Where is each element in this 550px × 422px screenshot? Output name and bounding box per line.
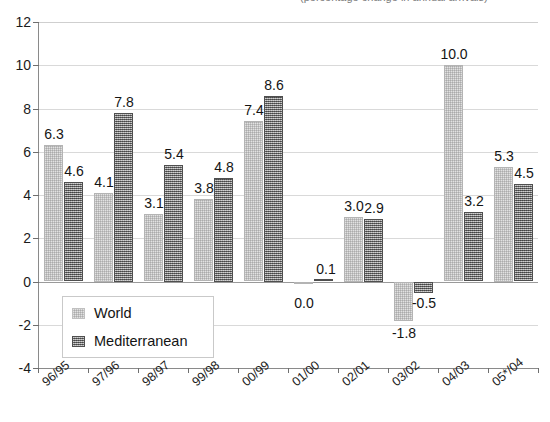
bar-mediterranean-0100 <box>314 279 333 281</box>
data-label: 3.1 <box>139 196 169 210</box>
bar-world-9998 <box>194 199 213 281</box>
data-label: 5.3 <box>489 149 519 163</box>
bar-world-0099 <box>244 121 263 281</box>
gridline <box>38 65 538 66</box>
x-axis-tick <box>538 368 539 373</box>
bar-chart: (percentage change in annual arrivals) -… <box>0 0 550 422</box>
gridline <box>38 109 538 110</box>
y-axis-tick <box>33 195 39 196</box>
bar-world-0403 <box>444 65 463 281</box>
data-label: 2.9 <box>359 201 389 215</box>
y-axis-label: 8 <box>3 102 31 116</box>
data-label: 0.0 <box>289 296 319 310</box>
bar-mediterranean-9796 <box>114 113 133 282</box>
legend-swatch-mediterranean-icon <box>72 336 85 347</box>
data-label: 7.4 <box>239 103 269 117</box>
bar-mediterranean-0504 <box>514 184 533 281</box>
gridline <box>38 238 538 239</box>
data-label: 4.6 <box>59 164 89 178</box>
legend-swatch-world-icon <box>72 308 85 319</box>
x-axis-tick <box>188 368 189 373</box>
y-axis-tick <box>33 325 39 326</box>
data-label: 3.8 <box>189 181 219 195</box>
data-label: 7.8 <box>109 95 139 109</box>
y-axis-label: 6 <box>3 145 31 159</box>
x-axis-tick <box>338 368 339 373</box>
cropped-title-text: (percentage change in annual arrivals) <box>300 0 488 3</box>
y-axis-tick <box>33 65 39 66</box>
x-axis-tick <box>488 368 489 373</box>
legend-item-world: World <box>72 305 132 321</box>
bar-world-9796 <box>94 193 113 282</box>
x-axis-tick <box>438 368 439 373</box>
x-axis-tick <box>238 368 239 373</box>
y-axis-label: 12 <box>3 15 31 29</box>
data-label: 3.2 <box>459 194 489 208</box>
data-label: 4.1 <box>89 175 119 189</box>
bar-world-9897 <box>144 214 163 281</box>
legend-item-mediterranean: Mediterranean <box>72 333 188 349</box>
bar-mediterranean-0099 <box>264 96 283 282</box>
y-axis-tick <box>33 152 39 153</box>
bar-mediterranean-9695 <box>64 182 83 281</box>
data-label: 5.4 <box>159 147 189 161</box>
gridline <box>38 22 538 23</box>
bar-mediterranean-9897 <box>164 165 183 282</box>
gridline <box>38 282 538 283</box>
y-axis-label: 10 <box>3 58 31 72</box>
data-label: 4.8 <box>209 160 239 174</box>
data-label: 0.1 <box>311 262 341 276</box>
y-axis-tick <box>33 238 39 239</box>
data-label: -0.5 <box>409 296 439 310</box>
x-axis-tick <box>138 368 139 373</box>
x-axis-tick <box>388 368 389 373</box>
data-label: 6.3 <box>39 127 69 141</box>
legend-label-mediterranean: Mediterranean <box>94 334 188 349</box>
bar-mediterranean-0403 <box>464 212 483 281</box>
x-axis-tick <box>88 368 89 373</box>
x-axis-tick <box>38 368 39 373</box>
y-axis-label: 0 <box>3 275 31 289</box>
y-axis-tick <box>33 282 39 283</box>
legend: World Mediterranean <box>62 296 214 358</box>
y-axis-label: 2 <box>3 231 31 245</box>
bar-world-0201 <box>344 217 363 282</box>
bar-world-0504 <box>494 167 513 282</box>
gridline <box>38 152 538 153</box>
x-axis-tick <box>288 368 289 373</box>
cropped-title-strip: (percentage change in annual arrivals) <box>0 0 550 10</box>
legend-label-world: World <box>94 306 132 321</box>
y-axis-tick <box>33 22 39 23</box>
y-axis-label: 4 <box>3 188 31 202</box>
bar-mediterranean-0201 <box>364 219 383 282</box>
data-label: 10.0 <box>439 47 469 61</box>
y-axis-label: -2 <box>3 318 31 332</box>
bar-world-0100 <box>294 282 313 284</box>
bar-mediterranean-0302 <box>414 282 433 293</box>
y-axis-label: -4 <box>3 361 31 375</box>
data-label: 8.6 <box>259 78 289 92</box>
data-label: -1.8 <box>389 326 419 340</box>
data-label: 4.5 <box>509 166 539 180</box>
y-axis-tick <box>33 109 39 110</box>
